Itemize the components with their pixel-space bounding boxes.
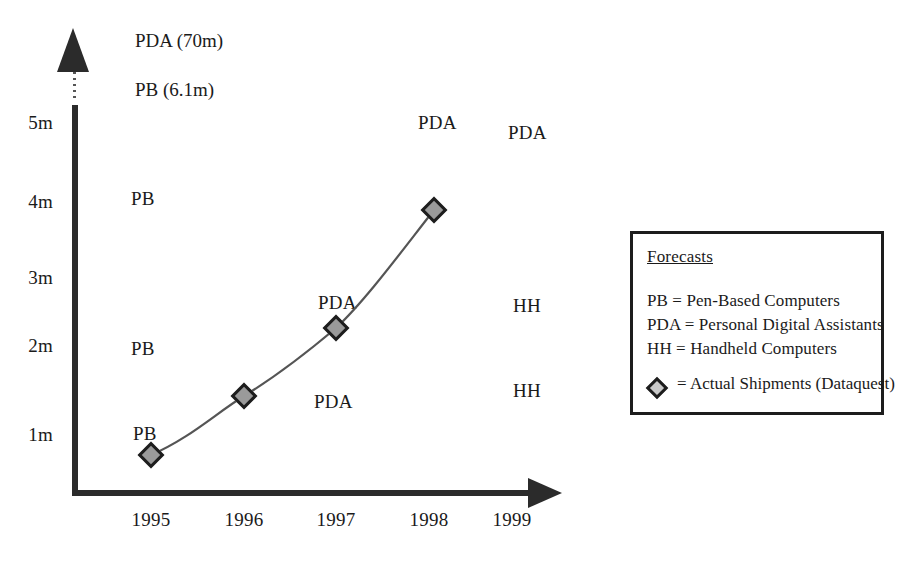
legend-box: Forecasts PB = Pen-Based Computers PDA =… — [630, 231, 884, 415]
legend-entry-pb: PB = Pen-Based Computers — [647, 291, 840, 311]
legend-entry-actual-shipments: = Actual Shipments (Dataquest) — [677, 374, 895, 394]
legend-diamond-icon — [646, 377, 669, 400]
legend-title: Forecasts — [647, 247, 713, 267]
legend-entry-pda: PDA = Personal Digital Assistants — [647, 315, 884, 335]
chart-canvas: 5m 4m 3m 2m 1m 1995 1996 1997 1998 1999 … — [0, 0, 914, 565]
legend-entry-hh: HH = Handheld Computers — [647, 339, 837, 359]
